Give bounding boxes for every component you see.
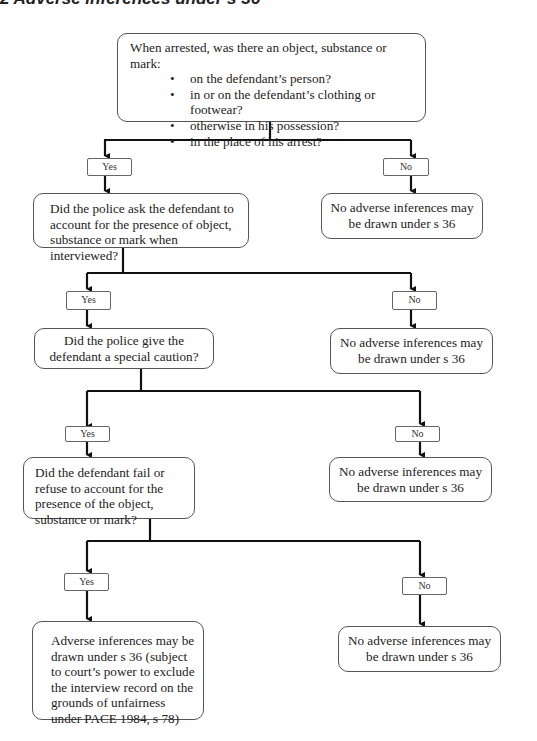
outcome-box-adverse-inference: Adverse inferences may be drawn under s … [32,621,204,720]
question-box-fail-refuse: Did the defendant fail or refuse to acco… [23,457,195,519]
condition-item: on the defendant’s person? [170,71,417,87]
question-box-police-ask: Did the police ask the defendant to acco… [33,193,249,248]
outcome-box-no-inference-4: No adverse inferences may be drawn under… [338,626,501,672]
condition-item: in or on the defendant’s clothing or foo… [170,87,417,118]
yes-label-2: Yes [66,291,111,310]
outcome-text: No adverse inferences may be drawn under… [338,464,483,495]
question-box-special-caution: Did the police give the defendant a spec… [34,328,214,369]
outcome-text: No adverse inferences may be drawn under… [330,200,474,231]
no-label-2: No [392,291,437,310]
no-label-1: No [383,158,429,176]
no-label-4: No [402,577,447,595]
outcome-text: No adverse inferences may be drawn under… [347,633,492,664]
yes-label-1: Yes [87,158,132,176]
condition-list: on the defendant’s person? in or on the … [130,71,417,149]
question-intro: When arrested, was there an object, subs… [130,40,417,71]
question-box-arrest-object: When arrested, was there an object, subs… [117,33,426,122]
outcome-text: Adverse inferences may be drawn under s … [51,633,195,726]
condition-item: in the place of his arrest? [170,134,417,150]
outcome-box-no-inference-2: No adverse inferences may be drawn under… [330,328,493,374]
condition-item: otherwise in his possession? [170,118,417,134]
no-label-3: No [395,426,440,442]
outcome-text: No adverse inferences may be drawn under… [339,335,484,366]
outcome-box-no-inference-1: No adverse inferences may be drawn under… [321,193,483,239]
yes-label-3: Yes [65,426,110,442]
yes-label-4: Yes [64,573,109,591]
question-text: Did the police give the defendant a spec… [43,333,205,364]
question-text: Did the defendant fail or refuse to acco… [35,465,165,527]
outcome-box-no-inference-3: No adverse inferences may be drawn under… [329,457,492,502]
